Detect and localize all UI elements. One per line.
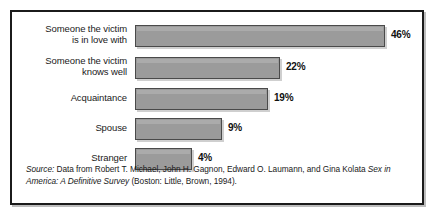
- source-note: Source: Data from Robert T. Michael, Joh…: [26, 164, 412, 187]
- bar-track: [135, 25, 385, 47]
- bar-row: Acquaintance 19%: [12, 88, 422, 110]
- bar-row: Spouse 9%: [12, 118, 422, 140]
- bar-value-label: 9%: [228, 122, 242, 133]
- bar-track: [135, 118, 222, 140]
- bar-track: [135, 88, 268, 110]
- bar: [135, 57, 280, 79]
- bar-category-label: Stranger: [7, 153, 127, 164]
- bar-category-label: Spouse: [7, 123, 127, 134]
- bar-category-label: Acquaintance: [7, 93, 127, 104]
- bar-track: [135, 57, 280, 79]
- bar: [135, 25, 385, 47]
- bar-chart: Someone the victim is in love with 46% S…: [12, 12, 422, 160]
- bar-value-label: 46%: [391, 29, 410, 40]
- source-note-text: Data from Robert T. Michael, John H. Gag…: [54, 164, 368, 174]
- source-note-lead: Source:: [26, 164, 54, 174]
- bar-value-label: 19%: [274, 92, 293, 103]
- source-note-publication: (Boston: Little, Brown, 1994).: [129, 176, 237, 186]
- figure-frame: Someone the victim is in love with 46% S…: [10, 10, 424, 205]
- figure-container: Someone the victim is in love with 46% S…: [0, 0, 439, 221]
- bar-value-label: 4%: [198, 152, 212, 163]
- bar-category-label: Someone the victim is in love with: [7, 24, 127, 45]
- bar: [135, 88, 268, 110]
- bar-category-label: Someone the victim knows well: [7, 56, 127, 77]
- bar: [135, 118, 222, 140]
- bar-row: Someone the victim is in love with 46%: [12, 25, 422, 47]
- bar-value-label: 22%: [286, 61, 305, 72]
- bar-row: Someone the victim knows well 22%: [12, 57, 422, 79]
